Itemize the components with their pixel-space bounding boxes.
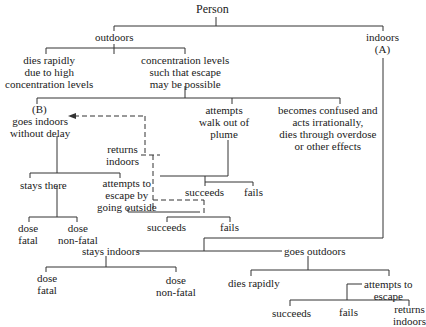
text-line: returns [393, 303, 426, 315]
text-line: concentration levels [5, 78, 93, 90]
node-attempts-to-escape: attempts to escape [364, 278, 413, 302]
node-goes-outdoors: goes outdoors [284, 245, 345, 257]
indoors-label: indoors [366, 31, 399, 43]
node-stays-indoors: stays indoors [82, 245, 140, 257]
node-dose-nonfatal-a: dose non-fatal [156, 274, 196, 298]
indoors-marker: (A) [366, 43, 399, 55]
node-concentration-escape-possible: concentration levels such that escape ma… [141, 54, 229, 90]
node-dies-rapidly-high-conc: dies rapidly due to high concentration l… [5, 54, 93, 90]
text-line: indoors [393, 315, 426, 327]
text-line: may be possible [141, 78, 229, 90]
node-esc-succeeds: succeeds [272, 307, 311, 319]
text-line: attempts to [364, 278, 413, 290]
node-dies-rapidly: dies rapidly [228, 277, 280, 289]
text-line: attempts [199, 104, 249, 116]
text-line: dose [18, 222, 38, 234]
node-esc-fails: fails [339, 306, 358, 318]
text-line: non-fatal [156, 286, 196, 298]
node-indoors: indoors (A) [366, 31, 399, 55]
node-person: Person [196, 3, 229, 15]
node-returns-indoors: returns indoors [106, 143, 139, 167]
text-line: going outside [97, 201, 157, 213]
text-line: returns [106, 143, 139, 155]
node-goes-indoors-without-delay: (B) goes indoors without delay [10, 103, 70, 139]
text-line: such that escape [141, 66, 229, 78]
text-line: acts irrationally, [278, 116, 378, 128]
b-marker: (B) [10, 103, 70, 115]
text-line: fatal [37, 284, 57, 296]
text-line: becomes confused and [278, 104, 378, 116]
text-line: dose [58, 222, 98, 234]
text-line: dose [156, 274, 196, 286]
node-esc-returns-indoors: returns indoors [393, 303, 426, 327]
text-line: goes indoors [10, 115, 70, 127]
text-line: due to high [5, 66, 93, 78]
node-dose-fatal-a: dose fatal [37, 272, 57, 296]
text-line: fatal [18, 234, 38, 246]
text-line: without delay [10, 127, 70, 139]
text-line: attempts to [97, 177, 157, 189]
text-line: plume [199, 128, 249, 140]
text-line: walk out of [199, 116, 249, 128]
node-outdoors: outdoors [95, 31, 134, 43]
node-walk-fails: fails [244, 186, 263, 198]
text-line: dose [37, 272, 57, 284]
node-becomes-confused: becomes confused and acts irrationally, … [278, 104, 378, 152]
text-line: or other effects [278, 140, 378, 152]
text-line: dies through overdose [278, 128, 378, 140]
node-stays-there: stays there [20, 179, 67, 191]
text-line: indoors [106, 155, 139, 167]
node-attempts-walk-out-of-plume: attempts walk out of plume [199, 104, 249, 140]
text-line: concentration levels [141, 54, 229, 66]
node-out-fails: fails [220, 221, 239, 233]
text-line: dies rapidly [5, 54, 93, 66]
text-line: escape by [97, 189, 157, 201]
node-dose-nonfatal-b: dose non-fatal [58, 222, 98, 246]
node-dose-fatal-b: dose fatal [18, 222, 38, 246]
node-out-succeeds: succeeds [147, 221, 186, 233]
node-attempts-escape-going-outside: attempts to escape by going outside [97, 177, 157, 213]
text-line: escape [364, 290, 413, 302]
node-walk-succeeds: succeeds [185, 186, 224, 198]
